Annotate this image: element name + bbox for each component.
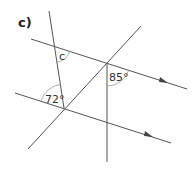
angle-label-85: 85° — [109, 71, 129, 84]
part-label: c) — [18, 15, 32, 30]
angle-diagram: c) c 85° 72° — [0, 0, 196, 171]
parallel-arrow-bottom-icon — [144, 131, 153, 137]
parallel-arrow-top-icon — [159, 77, 168, 83]
angle-label-72: 72° — [45, 93, 65, 106]
diagonal-transversal — [28, 26, 141, 149]
angle-label-c: c — [59, 50, 65, 63]
